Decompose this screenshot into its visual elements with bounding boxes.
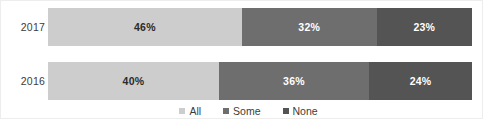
bar-segment-2016-none[interactable]: 24% [369, 62, 472, 100]
legend-label-all: All [189, 105, 201, 117]
bar-segment-2017-none[interactable]: 23% [377, 8, 472, 46]
bar-track-2016: 40% 36% 24% [48, 62, 472, 100]
bar-segment-2016-all[interactable]: 40% [48, 62, 219, 100]
legend-label-some: Some [233, 105, 260, 117]
legend-swatch-icon-some [223, 108, 229, 114]
legend-label-none: None [293, 105, 318, 117]
category-label-2016: 2016 [9, 62, 45, 100]
legend-item-all[interactable]: All [179, 105, 201, 117]
bar-row-2016: 2016 40% 36% 24% [1, 62, 483, 100]
legend-swatch-icon-none [283, 108, 289, 114]
chart-legend: All Some None [1, 103, 483, 119]
stacked-bar-chart: 2017 46% 32% 23% 2016 40% 36% 24% All So… [0, 0, 483, 119]
bar-segment-2016-some[interactable]: 36% [219, 62, 369, 100]
bar-track-2017: 46% 32% 23% [48, 8, 472, 46]
legend-item-none[interactable]: None [283, 105, 318, 117]
legend-item-some[interactable]: Some [223, 105, 260, 117]
bar-segment-2017-all[interactable]: 46% [48, 8, 242, 46]
bar-segment-2017-some[interactable]: 32% [242, 8, 377, 46]
legend-swatch-icon-all [179, 108, 185, 114]
bar-row-2017: 2017 46% 32% 23% [1, 8, 483, 46]
category-label-2017: 2017 [9, 8, 45, 46]
